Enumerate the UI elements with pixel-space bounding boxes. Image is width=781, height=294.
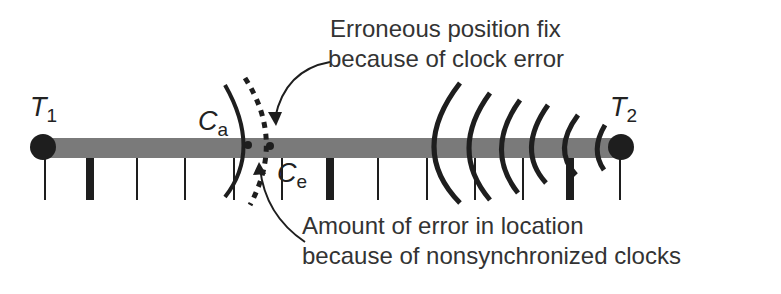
annotation-line-1: Amount of error in location [302,211,681,241]
transmitter-t2-label: T2 [610,92,637,127]
annotation-line-2: because of clock error [328,44,564,74]
annotation-line-2: because of nonsynchronized clocks [302,241,681,271]
symbol-letter: T [610,92,627,122]
transmitter-t2-dot [608,134,634,160]
point-ca-label: Ca [198,106,228,141]
transmitter-t1-dot [30,134,56,160]
erroneous-fix-annotation: Erroneous position fix because of clock … [330,14,564,74]
error-amount-annotation: Amount of error in location because of n… [302,211,681,271]
transmitter-t1-label: T1 [30,92,57,127]
symbol-subscript: a [218,119,229,140]
symbol-subscript: 1 [47,105,58,126]
symbol-letter: C [277,158,297,188]
symbol-subscript: e [297,171,308,192]
erroneous-fix-arrow [275,62,330,118]
symbol-letter: C [198,106,218,136]
symbol-subscript: 2 [627,105,638,126]
erroneous-position-point [266,142,274,150]
symbol-letter: T [30,92,47,122]
arrowhead-icon [253,162,266,175]
arrowhead-icon [268,112,282,126]
annotation-line-1: Erroneous position fix [330,14,564,44]
point-ce-label: Ce [277,158,307,193]
actual-position-point [244,141,252,149]
